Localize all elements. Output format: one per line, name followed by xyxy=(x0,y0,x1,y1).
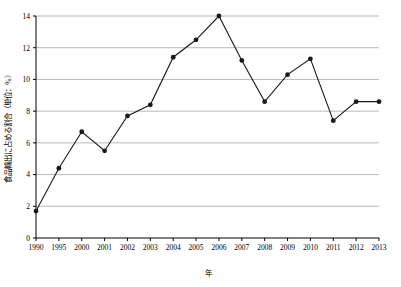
line-chart: 02468101214 1990199520002001200220032004… xyxy=(0,0,401,287)
data-point xyxy=(102,148,107,153)
data-point xyxy=(171,55,176,60)
y-axis-ticks: 02468101214 xyxy=(23,12,37,243)
data-point xyxy=(262,99,267,104)
x-tick-label: 2005 xyxy=(189,243,204,252)
x-tick-label: 2009 xyxy=(280,243,295,252)
x-tick-label: 2007 xyxy=(234,243,249,252)
y-tick-label: 8 xyxy=(26,107,30,116)
x-tick-label: 2008 xyxy=(257,243,272,252)
y-tick-label: 14 xyxy=(23,12,31,21)
data-point xyxy=(377,99,382,104)
data-point-markers xyxy=(34,14,382,214)
data-point xyxy=(125,114,130,119)
x-tick-label: 2013 xyxy=(372,243,387,252)
x-tick-label: 2010 xyxy=(303,243,318,252)
x-tick-label: 2002 xyxy=(120,243,135,252)
x-tick-label: 2011 xyxy=(326,243,341,252)
data-point xyxy=(239,58,244,63)
data-point xyxy=(194,37,199,42)
data-point xyxy=(79,129,84,134)
data-point xyxy=(354,99,359,104)
x-axis-ticks: 1990199520002001200220032004200520062007… xyxy=(29,238,387,252)
x-tick-label: 2006 xyxy=(211,243,226,252)
data-point xyxy=(217,14,222,19)
chart-container: 02468101214 1990199520002001200220032004… xyxy=(0,0,401,287)
x-tick-label: 2004 xyxy=(166,243,181,252)
y-tick-label: 10 xyxy=(23,75,31,84)
y-tick-label: 6 xyxy=(26,139,30,148)
x-tick-label: 2000 xyxy=(74,243,89,252)
data-point xyxy=(56,166,61,171)
x-tick-label: 2003 xyxy=(143,243,158,252)
data-point xyxy=(148,102,153,107)
data-point xyxy=(331,118,336,123)
gridlines xyxy=(36,16,379,206)
data-line-series xyxy=(36,16,379,211)
x-tick-label: 2012 xyxy=(349,243,364,252)
x-tick-label: 2001 xyxy=(97,243,112,252)
x-tick-label: 1995 xyxy=(51,243,66,252)
data-point xyxy=(34,209,39,214)
y-axis-title: 食品輸出に占める割合（単位：%） xyxy=(3,71,13,182)
y-tick-label: 2 xyxy=(26,202,30,211)
x-axis-title: 年 xyxy=(205,268,213,278)
y-tick-label: 12 xyxy=(23,44,31,53)
y-tick-label: 4 xyxy=(26,170,30,179)
x-tick-label: 1990 xyxy=(29,243,44,252)
y-tick-label: 0 xyxy=(26,234,30,243)
data-point xyxy=(308,56,313,61)
data-point xyxy=(285,72,290,77)
